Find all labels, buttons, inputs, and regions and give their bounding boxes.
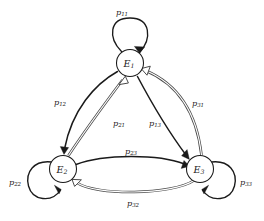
state-node-e1[interactable]: E1 xyxy=(117,50,144,77)
transition-p12: p12 xyxy=(54,72,118,155)
edge-label-p33: p33 xyxy=(240,177,253,187)
transition-p21: p21 xyxy=(69,76,129,155)
edge-path-p31-outer xyxy=(146,71,202,156)
edge-label-p12: p12 xyxy=(54,97,67,107)
edge-label-p23: p23 xyxy=(125,146,138,156)
edge-path-p32-outer xyxy=(77,181,195,193)
edge-path-p31-inner xyxy=(146,71,202,156)
edge-label-p32: p32 xyxy=(127,198,140,208)
edge-label-p11: p11 xyxy=(116,7,128,17)
edge-path-p12 xyxy=(65,72,118,150)
state-node-e2[interactable]: E2 xyxy=(50,156,77,183)
arrowhead-p21 xyxy=(119,76,128,84)
transition-p13: p13 xyxy=(138,77,190,160)
edge-label-p13: p13 xyxy=(149,118,162,128)
transition-p31: p31 xyxy=(141,66,204,155)
transition-p11: p11 xyxy=(113,7,148,53)
edge-label-p31: p31 xyxy=(192,98,204,108)
arrowhead-p12 xyxy=(60,147,68,155)
state-node-e3[interactable]: E3 xyxy=(187,156,214,183)
edge-label-p21: p21 xyxy=(113,118,125,128)
markov-chain-diagram: p11 p22 p33 p12 p21 xyxy=(0,0,264,221)
edge-path-p13 xyxy=(138,77,187,156)
edge-label-p22: p22 xyxy=(9,177,22,187)
transition-p23: p23 xyxy=(76,146,190,168)
state-transition-graph: p11 p22 p33 p12 p21 xyxy=(0,0,264,221)
edge-path-p23 xyxy=(76,157,185,165)
transition-p32: p32 xyxy=(72,179,194,208)
